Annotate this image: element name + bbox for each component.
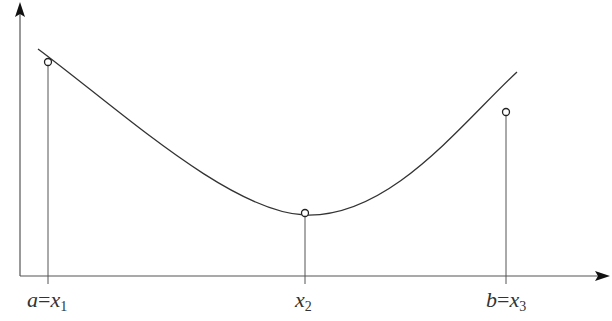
diagram-canvas xyxy=(0,0,612,321)
x2-point-marker xyxy=(302,210,309,217)
x1-label-sym: x xyxy=(50,287,60,312)
x3-label: b=x3 xyxy=(486,289,526,314)
x1-label-sub: 1 xyxy=(60,299,67,314)
function-curve xyxy=(38,49,517,215)
x1-label-eq: = xyxy=(38,287,50,312)
x2-label-sub: 2 xyxy=(305,299,312,314)
x3-label-sym: x xyxy=(509,287,519,312)
x3-label-eq: = xyxy=(497,287,509,312)
x3-label-sub: 3 xyxy=(519,299,526,314)
x2-label: x2 xyxy=(295,289,312,314)
x1-label: a=x1 xyxy=(27,289,67,314)
x1-label-var: a xyxy=(27,287,38,312)
x2-label-sym: x xyxy=(295,287,305,312)
x3-point-marker xyxy=(503,109,510,116)
x1-point-marker xyxy=(45,59,52,66)
x3-label-var: b xyxy=(486,287,497,312)
